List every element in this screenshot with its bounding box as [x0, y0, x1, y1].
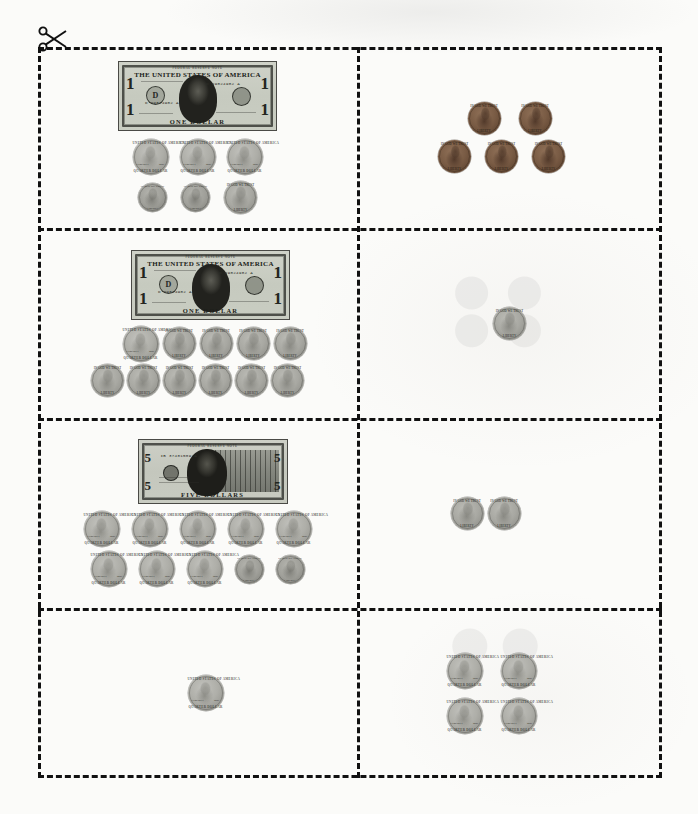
nickel-coin: IN GOD WE TRUSTLIBERTY — [200, 327, 233, 360]
coin-row: IN GOD WE TRUSTLIBERTY IN GOD WE TRUSTLI… — [91, 364, 304, 397]
bill-federal-reserve-seal: D — [159, 275, 178, 294]
dime-coin: IN GOD WE TRUSTLIBERTY — [276, 555, 305, 584]
bill-corner-denomination: 1 — [126, 100, 135, 120]
card-cell-r4c1[interactable]: UNITED STATES OF AMERICALIBERTY2001QUART… — [38, 608, 357, 778]
quarter-coin: UNITED STATES OF AMERICALIBERTY2001QUART… — [84, 511, 120, 547]
bill-serial-number: IB 37481509 A — [161, 454, 198, 458]
coin-row: UNITED STATES OF AMERICALIBERTY2001QUART… — [91, 551, 305, 587]
quarter-coin: UNITED STATES OF AMERICALIBERTY2001QUART… — [276, 511, 312, 547]
penny-coin: IN GOD WE TRUSTLIBERTY — [468, 102, 501, 135]
quarter-coin: UNITED STATES OF AMERICALIBERTY2001QUART… — [501, 698, 537, 734]
coin-row: UNITED STATES OF AMERICALIBERTY2001QUART… — [447, 698, 537, 734]
quarter-coin: UNITED STATES OF AMERICALIBERTY2001QUART… — [447, 698, 483, 734]
bill-portrait — [192, 264, 230, 312]
bill-group: FEDERAL RESERVE NOTE THE UNITED STATES O… — [131, 250, 290, 320]
card-cell-r2c2[interactable]: IN GOD WE TRUSTLIBERTY — [357, 228, 662, 418]
bill-signature-line — [152, 302, 186, 303]
nickel-coin: IN GOD WE TRUSTLIBERTY — [235, 364, 268, 397]
card-cell-r4c2[interactable]: UNITED STATES OF AMERICALIBERTY2001QUART… — [357, 608, 662, 778]
nickel-coin: IN GOD WE TRUSTLIBERTY — [224, 181, 257, 214]
quarter-coin: UNITED STATES OF AMERICALIBERTY2001QUART… — [447, 653, 483, 689]
coin-row: IN GOD WE TRUSTLIBERTY IN GOD WE TRUSTLI… — [138, 181, 257, 214]
bill-title: THE UNITED STATES OF AMERICA — [119, 71, 276, 79]
bill-corner-denomination: 1 — [126, 74, 135, 94]
bill-corner-denomination: 5 — [145, 478, 152, 494]
nickel-coin: IN GOD WE TRUSTLIBERTY — [127, 364, 160, 397]
bill-federal-reserve-seal — [163, 465, 179, 481]
dime-coin: IN GOD WE TRUSTLIBERTY — [138, 183, 167, 212]
bill-serial-number: D 99824982 A — [158, 290, 192, 294]
penny-coin: IN GOD WE TRUSTLIBERTY — [438, 140, 471, 173]
quarter-coin: UNITED STATES OF AMERICALIBERTY2001QUART… — [501, 653, 537, 689]
card-cell-r1c2[interactable]: IN GOD WE TRUSTLIBERTY IN GOD WE TRUSTLI… — [357, 47, 662, 228]
nickel-coin: IN GOD WE TRUSTLIBERTY — [493, 307, 526, 340]
nickel-coin: IN GOD WE TRUSTLIBERTY — [163, 327, 196, 360]
bill-engraving-line — [141, 81, 183, 82]
card-cell-r1c1[interactable]: FEDERAL RESERVE NOTE THE UNITED STATES O… — [38, 47, 357, 228]
bill-corner-denomination: 1 — [139, 263, 148, 283]
card-cell-r3c2[interactable]: IN GOD WE TRUSTLIBERTY IN GOD WE TRUSTLI… — [357, 418, 662, 608]
nickel-coin: IN GOD WE TRUSTLIBERTY — [274, 327, 307, 360]
bill-top-text: FEDERAL RESERVE NOTE — [139, 444, 287, 448]
bill-group: FEDERAL RESERVE NOTE THE UNITED STATES O… — [118, 61, 277, 131]
coin-row: UNITED STATES OF AMERICALIBERTY2001QUART… — [84, 511, 312, 547]
penny-coin: IN GOD WE TRUSTLIBERTY — [519, 102, 552, 135]
card-grid: FEDERAL RESERVE NOTE THE UNITED STATES O… — [38, 47, 662, 778]
five-dollar-bill: FEDERAL RESERVE NOTE 5 5 5 5 IB 37481509… — [138, 439, 288, 504]
coin-row: IN GOD WE TRUSTLIBERTY — [493, 307, 526, 340]
bill-corner-denomination: 5 — [274, 478, 281, 494]
cut-out-sheet: FEDERAL RESERVE NOTE THE UNITED STATES O… — [38, 47, 662, 778]
bill-serial-number: D 99824982 A — [145, 101, 179, 105]
bill-signature-line — [159, 477, 189, 478]
quarter-coin: UNITED STATES OF AMERICALIBERTY2001QUART… — [227, 139, 263, 175]
coin-row: UNITED STATES OF AMERICALIBERTY2001QUART… — [188, 675, 224, 711]
bill-bottom-text: ONE DOLLAR — [119, 118, 276, 125]
bill-corner-denomination: 1 — [274, 263, 283, 283]
bill-corner-denomination: 1 — [261, 100, 270, 120]
bill-corner-denomination: 1 — [274, 289, 283, 309]
coin-row: UNITED STATES OF AMERICALIBERTY2001QUART… — [447, 653, 537, 689]
one-dollar-bill: FEDERAL RESERVE NOTE THE UNITED STATES O… — [118, 61, 277, 131]
nickel-coin: IN GOD WE TRUSTLIBERTY — [91, 364, 124, 397]
nickel-coin: IN GOD WE TRUSTLIBERTY — [451, 497, 484, 530]
card-cell-r2c1[interactable]: FEDERAL RESERVE NOTE THE UNITED STATES O… — [38, 228, 357, 418]
one-dollar-bill: FEDERAL RESERVE NOTE THE UNITED STATES O… — [131, 250, 290, 320]
quarter-coin: UNITED STATES OF AMERICALIBERTY2001QUART… — [123, 326, 159, 362]
bill-serial-number: D 99824982 A — [206, 82, 240, 86]
bill-serial-number: D 99824982 A — [219, 271, 253, 275]
bill-portrait — [187, 449, 227, 496]
quarter-coin: UNITED STATES OF AMERICALIBERTY2001QUART… — [188, 675, 224, 711]
bill-treasury-seal — [232, 87, 251, 106]
card-cell-r3c1[interactable]: FEDERAL RESERVE NOTE 5 5 5 5 IB 37481509… — [38, 418, 357, 608]
coin-row: IN GOD WE TRUSTLIBERTY IN GOD WE TRUSTLI… — [451, 497, 521, 530]
nickel-coin: IN GOD WE TRUSTLIBERTY — [237, 327, 270, 360]
bill-top-text: FEDERAL RESERVE NOTE — [132, 255, 289, 259]
bill-signature-line — [159, 482, 199, 483]
coin-row: UNITED STATES OF AMERICALIBERTY2001QUART… — [133, 139, 263, 175]
bill-corner-denomination: 1 — [261, 74, 270, 94]
quarter-coin: UNITED STATES OF AMERICALIBERTY2001QUART… — [91, 551, 127, 587]
bill-bottom-text: FIVE DOLLARS — [139, 491, 287, 498]
quarter-coin: UNITED STATES OF AMERICALIBERTY2001QUART… — [228, 511, 264, 547]
bill-signature-line — [229, 301, 269, 302]
bill-corner-denomination: 1 — [139, 289, 148, 309]
dime-coin: IN GOD WE TRUSTLIBERTY — [181, 183, 210, 212]
coin-row: IN GOD WE TRUSTLIBERTY IN GOD WE TRUSTLI… — [468, 102, 552, 135]
quarter-coin: UNITED STATES OF AMERICALIBERTY2001QUART… — [139, 551, 175, 587]
bill-title: THE UNITED STATES OF AMERICA — [132, 260, 289, 268]
nickel-coin: IN GOD WE TRUSTLIBERTY — [488, 497, 521, 530]
bill-top-text: FEDERAL RESERVE NOTE — [119, 66, 276, 70]
quarter-coin: UNITED STATES OF AMERICALIBERTY2001QUART… — [187, 551, 223, 587]
quarter-coin: UNITED STATES OF AMERICALIBERTY2001QUART… — [133, 139, 169, 175]
bill-signature-line — [216, 112, 256, 113]
dime-coin: IN GOD WE TRUSTLIBERTY — [235, 555, 264, 584]
bill-federal-reserve-seal: D — [146, 86, 165, 105]
bill-group: FEDERAL RESERVE NOTE 5 5 5 5 IB 37481509… — [138, 439, 288, 504]
bill-bottom-text: ONE DOLLAR — [132, 307, 289, 314]
quarter-coin: UNITED STATES OF AMERICALIBERTY2001QUART… — [180, 139, 216, 175]
nickel-coin: IN GOD WE TRUSTLIBERTY — [271, 364, 304, 397]
quarter-coin: UNITED STATES OF AMERICALIBERTY2001QUART… — [180, 511, 216, 547]
bill-engraving-line — [154, 270, 196, 271]
bill-signature-line — [139, 113, 173, 114]
bill-corner-denomination: 5 — [145, 450, 152, 466]
